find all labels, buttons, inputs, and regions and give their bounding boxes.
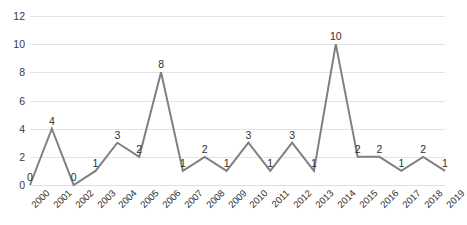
data-point-label: 3 <box>289 129 295 140</box>
x-axis-tick-label: 2011 <box>270 188 291 209</box>
data-point-label: 1 <box>224 157 230 168</box>
y-axis-tick-label: 10 <box>13 39 25 50</box>
y-axis-tick-label: 12 <box>13 11 25 22</box>
plot-area: 024681012 040132812131311022121 <box>30 16 445 185</box>
y-axis-tick-label: 8 <box>19 67 25 78</box>
x-axis-tick-label: 2003 <box>95 188 117 210</box>
x-axis-tick-label: 2010 <box>248 188 270 210</box>
data-point-label: 1 <box>398 157 404 168</box>
y-axis-tick-label: 0 <box>19 180 25 191</box>
data-point-label: 1 <box>93 157 99 168</box>
x-axis-tick-label: 2007 <box>183 188 205 210</box>
data-point-label: 1 <box>311 157 317 168</box>
x-axis-tick-label: 2016 <box>379 188 401 210</box>
x-axis-tick-label: 2000 <box>30 188 52 210</box>
x-axis-tick-label: 2009 <box>226 188 248 210</box>
data-point-label: 4 <box>49 115 55 126</box>
x-axis-tick-label: 2018 <box>423 188 445 210</box>
x-axis-tick-label: 2014 <box>335 188 357 210</box>
data-point-label: 8 <box>158 59 164 70</box>
x-axis-tick-label: 2019 <box>445 188 467 210</box>
data-point-label: 2 <box>136 143 142 154</box>
data-point-label: 2 <box>202 143 208 154</box>
x-axis-tick-label: 2015 <box>357 188 379 210</box>
data-point-label: 0 <box>71 172 77 183</box>
data-point-label: 2 <box>420 143 426 154</box>
x-axis-tick-label: 2005 <box>139 188 161 210</box>
data-point-label: 3 <box>245 129 251 140</box>
x-axis-labels: 2000200120022003200420052006200720082009… <box>30 188 445 225</box>
x-axis-tick-label: 2017 <box>401 188 423 210</box>
data-point-label: 1 <box>180 157 186 168</box>
y-axis-tick-label: 6 <box>19 95 25 106</box>
x-axis-tick-label: 2006 <box>161 188 183 210</box>
x-axis-tick-label: 2013 <box>314 188 336 210</box>
x-axis-tick-label: 2008 <box>204 188 226 210</box>
data-point-label: 1 <box>442 157 448 168</box>
x-axis-tick-label: 2001 <box>51 188 73 210</box>
gridline <box>30 185 445 186</box>
y-axis-tick-label: 4 <box>19 123 25 134</box>
data-point-label: 3 <box>114 129 120 140</box>
y-axis-tick-label: 2 <box>19 152 25 163</box>
x-axis-tick-label: 2004 <box>117 188 139 210</box>
data-point-label: 0 <box>27 172 33 183</box>
data-point-label: 2 <box>355 143 361 154</box>
x-axis-tick-label: 2002 <box>73 188 95 210</box>
data-point-label: 10 <box>330 31 342 42</box>
data-point-label: 1 <box>267 157 273 168</box>
x-axis-tick-label: 2012 <box>292 188 314 210</box>
data-point-label: 2 <box>377 143 383 154</box>
